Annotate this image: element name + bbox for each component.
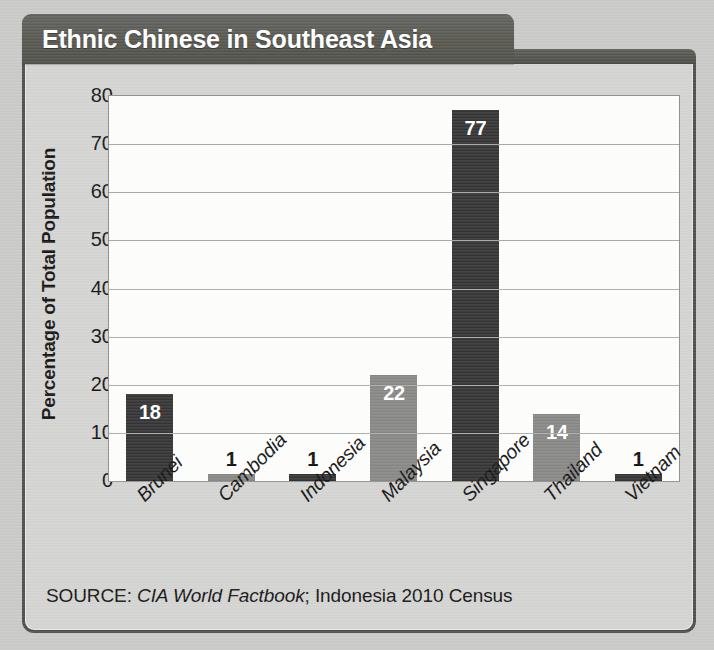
y-tick-label: 10 bbox=[61, 420, 113, 443]
gridline bbox=[109, 385, 679, 386]
bar-chart: Percentage of Total Population 807060504… bbox=[25, 63, 693, 627]
y-tick-label: 50 bbox=[61, 228, 113, 251]
bar-value-label: 77 bbox=[452, 117, 499, 140]
gridline bbox=[109, 144, 679, 145]
y-tick-label: 70 bbox=[61, 132, 113, 155]
source-note: SOURCE: CIA World Factbook; Indonesia 20… bbox=[46, 585, 512, 607]
y-tick-label: 40 bbox=[61, 276, 113, 299]
chart-panel: Percentage of Total Population 807060504… bbox=[22, 63, 696, 633]
gridline bbox=[109, 192, 679, 193]
x-axis-tick-labels: BruneiCambodiaIndonesiaMalaysiaSingapore… bbox=[108, 482, 678, 574]
y-tick-label: 30 bbox=[61, 324, 113, 347]
y-axis-tick-labels: 80706050403020100 bbox=[61, 63, 113, 493]
bar-singapore[interactable]: 77 bbox=[452, 110, 499, 481]
x-label-slot: Cambodia bbox=[191, 482, 272, 574]
x-label-slot: Vietnam bbox=[598, 482, 679, 574]
x-label-slot: Indonesia bbox=[272, 482, 353, 574]
plot-area: 18112277141 bbox=[108, 95, 680, 482]
page-title: Ethnic Chinese in Southeast Asia bbox=[42, 25, 432, 54]
y-tick-label: 0 bbox=[61, 469, 113, 492]
source-suffix: ; Indonesia 2010 Census bbox=[305, 585, 513, 606]
y-tick-label: 80 bbox=[61, 84, 113, 107]
y-tick-label: 20 bbox=[61, 372, 113, 395]
x-label-slot: Singapore bbox=[435, 482, 516, 574]
figure-container: Ethnic Chinese in Southeast Asia Percent… bbox=[0, 0, 714, 650]
source-prefix: SOURCE: bbox=[46, 585, 137, 606]
x-label-slot: Thailand bbox=[516, 482, 597, 574]
chart-title-tab: Ethnic Chinese in Southeast Asia bbox=[22, 14, 514, 64]
x-label-slot: Malaysia bbox=[353, 482, 434, 574]
bar-value-label: 18 bbox=[126, 401, 173, 424]
x-label-slot: Brunei bbox=[109, 482, 190, 574]
source-publication: CIA World Factbook bbox=[137, 585, 305, 606]
gridline bbox=[109, 337, 679, 338]
y-axis-title: Percentage of Total Population bbox=[38, 119, 60, 449]
y-tick-label: 60 bbox=[61, 180, 113, 203]
gridline bbox=[109, 433, 679, 434]
title-bar-extension bbox=[500, 49, 696, 64]
gridline bbox=[109, 289, 679, 290]
gridline bbox=[109, 240, 679, 241]
